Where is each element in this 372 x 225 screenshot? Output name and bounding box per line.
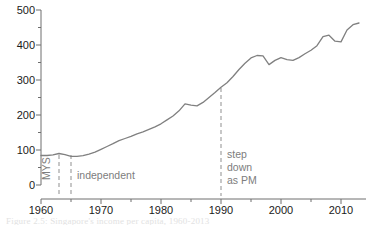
annotation-step: step [227, 148, 247, 160]
annotation-independent: independent [77, 169, 135, 181]
y-tick-label-500: 500 [17, 4, 35, 16]
x-tick-label-1970: 1970 [89, 204, 113, 216]
x-tick-label-1980: 1980 [149, 204, 173, 216]
x-tick-label-2000: 2000 [269, 204, 293, 216]
x-tick-label-1990: 1990 [209, 204, 233, 216]
y-tick-label-400: 400 [17, 39, 35, 51]
annotation-as-pm: as PM [227, 174, 257, 186]
chart-figure: 500 400 300 200 100 0 [0, 0, 372, 225]
data-series-line [41, 23, 359, 156]
figure-caption: Figure 2.5: Singapore's income per capit… [6, 216, 209, 225]
y-tick-label-200: 200 [17, 109, 35, 121]
x-tick-label-1960: 1960 [29, 204, 53, 216]
x-tick-label-2010: 2010 [329, 204, 353, 216]
annotation-mys: MYS [40, 157, 52, 180]
y-tick-label-300: 300 [17, 74, 35, 86]
line-chart: 500 400 300 200 100 0 [0, 0, 372, 225]
y-tick-label-100: 100 [17, 144, 35, 156]
y-tick-label-0: 0 [29, 179, 35, 191]
annotation-down: down [227, 161, 252, 173]
